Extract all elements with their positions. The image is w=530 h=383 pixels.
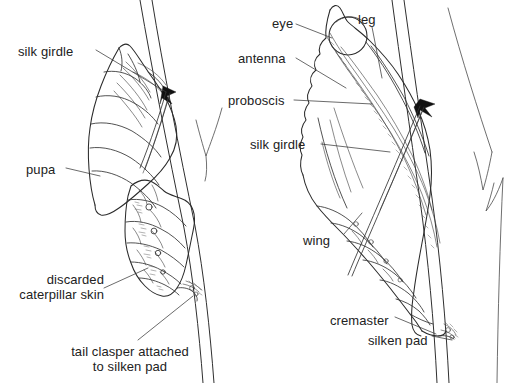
label-tail-clasper-line1: tail clasper attached (55, 344, 205, 359)
label-silk-girdle-left: silk girdle (18, 44, 73, 59)
label-wing: wing (303, 233, 330, 248)
label-pupa: pupa (26, 162, 55, 177)
label-silk-girdle-right: silk girdle (250, 137, 305, 152)
label-tail-clasper-line2: to silken pad (55, 359, 205, 374)
label-antenna: antenna (238, 51, 286, 66)
chrysalis-figure: .s { fill:none; stroke:#2a2a2a; stroke-w… (0, 0, 530, 383)
label-silken-pad: silken pad (368, 333, 428, 348)
label-discarded-caterpillar-skin-line2: caterpillar skin (0, 287, 104, 302)
label-eye: eye (272, 16, 293, 31)
label-proboscis: proboscis (228, 93, 285, 108)
label-leg: leg (358, 12, 376, 27)
label-discarded-caterpillar-skin-line1: discarded (0, 272, 104, 287)
label-cremaster: cremaster (330, 313, 389, 328)
